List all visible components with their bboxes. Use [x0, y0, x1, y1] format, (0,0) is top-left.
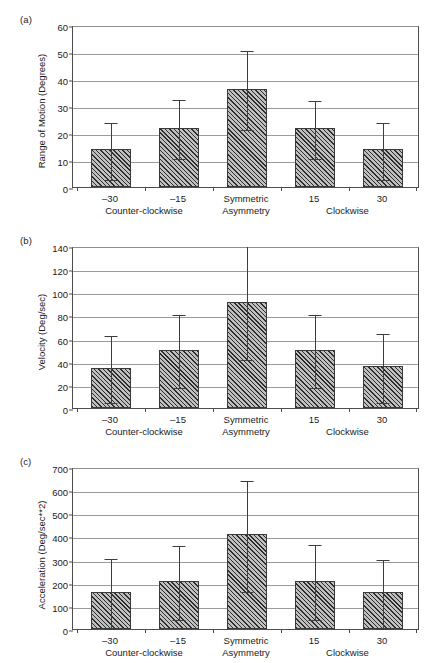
y-tick-mark	[69, 54, 73, 55]
error-bar-cap-upper	[309, 315, 322, 316]
x-tick-mark	[349, 408, 350, 412]
y-tick-label: 30	[57, 103, 68, 114]
x-category-line: –15	[139, 193, 217, 205]
panel-label-c: (c)	[20, 456, 31, 467]
error-bar-cap-upper	[377, 334, 390, 335]
gridline	[73, 271, 418, 272]
y-tick-mark	[69, 631, 73, 632]
panel-label-b: (b)	[20, 235, 32, 246]
x-group-label: Counter-clockwise	[76, 205, 212, 216]
x-category-label: –15	[139, 414, 217, 426]
gridline	[73, 81, 418, 82]
y-tick-mark	[69, 607, 73, 608]
y-tick-mark	[69, 386, 73, 387]
y-tick-mark	[69, 248, 73, 249]
x-category-label: 30	[343, 414, 421, 426]
panel-c: (c) Acceleration (Deg/sec**2) 0100200300…	[0, 442, 437, 663]
error-bar-cap-lower	[377, 629, 390, 630]
x-tick-mark	[349, 629, 350, 633]
error-bar	[111, 559, 112, 629]
error-bar-cap-lower	[309, 620, 322, 621]
error-bar	[315, 545, 316, 620]
x-category-label: 15	[275, 635, 353, 647]
error-bar-cap-lower	[105, 629, 118, 630]
y-axis-title-a: Range of Motion (Degrees)	[36, 26, 50, 196]
y-tick-mark	[69, 27, 73, 28]
y-tick-mark	[69, 410, 73, 411]
y-tick-label: 120	[52, 266, 68, 277]
x-category-label: 30	[343, 635, 421, 647]
y-tick-label: 600	[52, 487, 68, 498]
y-tick-mark	[69, 108, 73, 109]
y-axis-title-c: Acceleration (Deg/sec**2)	[36, 470, 50, 640]
gridline	[73, 515, 418, 516]
gridline	[73, 492, 418, 493]
x-category-line: Asymmetry	[207, 426, 285, 438]
error-bar	[247, 51, 248, 130]
y-tick-label: 400	[52, 533, 68, 544]
x-tick-mark	[77, 408, 78, 412]
error-bar-cap-lower	[105, 403, 118, 404]
x-category-line: –30	[71, 635, 149, 647]
error-bar-cap-upper	[105, 559, 118, 560]
y-tick-mark	[69, 561, 73, 562]
x-group-label: Clockwise	[280, 426, 415, 437]
x-category-label: 15	[275, 193, 353, 205]
error-bar	[383, 123, 384, 180]
x-tick-mark	[145, 187, 146, 191]
x-category-line: 15	[275, 193, 353, 205]
y-tick-label: 500	[52, 510, 68, 521]
error-bar-cap-lower	[309, 159, 322, 160]
error-bar	[383, 334, 384, 403]
error-bar-cap-lower	[241, 592, 254, 593]
error-bar	[247, 247, 248, 359]
x-group-label: Clockwise	[280, 647, 415, 658]
x-tick-mark	[145, 408, 146, 412]
error-bar-cap-upper	[173, 546, 186, 547]
error-bar-cap-upper	[173, 315, 186, 316]
y-tick-mark	[69, 340, 73, 341]
figure-three-panel-bar-charts: (a) Range of Motion (Degrees) 0102030405…	[0, 0, 437, 663]
y-tick-label: 200	[52, 579, 68, 590]
error-bar-cap-lower	[105, 180, 118, 181]
y-tick-mark	[69, 271, 73, 272]
y-tick-label: 0	[63, 405, 68, 416]
x-category-label: –30	[71, 414, 149, 426]
x-tick-mark	[281, 187, 282, 191]
error-bar	[111, 123, 112, 180]
error-bar	[247, 481, 248, 592]
error-bar	[179, 100, 180, 159]
x-tick-mark	[416, 408, 417, 412]
x-category-label: –30	[71, 635, 149, 647]
x-tick-mark	[145, 629, 146, 633]
error-bar-cap-lower	[377, 180, 390, 181]
y-tick-mark	[69, 189, 73, 190]
error-bar-cap-lower	[173, 388, 186, 389]
error-bar	[383, 560, 384, 629]
x-tick-mark	[349, 187, 350, 191]
x-category-line: Asymmetry	[207, 647, 285, 659]
x-category-label: 15	[275, 414, 353, 426]
x-category-label: –30	[71, 193, 149, 205]
x-category-line: Symmetric	[207, 193, 285, 205]
y-tick-label: 100	[52, 289, 68, 300]
error-bar-cap-upper	[241, 481, 254, 482]
y-tick-label: 10	[57, 157, 68, 168]
x-category-line: Asymmetry	[207, 205, 285, 217]
x-category-line: 30	[343, 414, 421, 426]
y-tick-mark	[69, 363, 73, 364]
plot-area-b: 020406080100120140	[72, 247, 419, 409]
y-tick-label: 60	[57, 335, 68, 346]
error-bar	[179, 315, 180, 388]
x-group-label: Counter-clockwise	[76, 647, 212, 658]
y-tick-label: 20	[57, 381, 68, 392]
error-bar-cap-lower	[173, 620, 186, 621]
plot-area-a: 0102030405060	[72, 26, 419, 188]
x-category-label: –15	[139, 635, 217, 647]
y-tick-mark	[69, 469, 73, 470]
x-category-line: –30	[71, 193, 149, 205]
y-tick-label: 0	[63, 626, 68, 637]
error-bar-cap-upper	[105, 336, 118, 337]
x-tick-mark	[213, 187, 214, 191]
error-bar-cap-lower	[241, 130, 254, 131]
